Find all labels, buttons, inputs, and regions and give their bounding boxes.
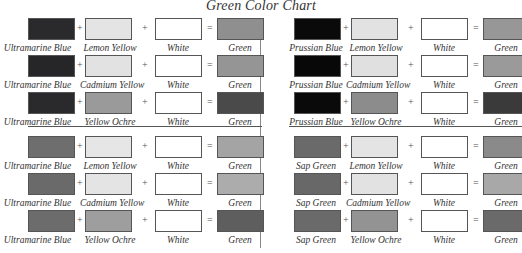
mix-row: Ultramarine BlueLemon YellowWhiteGreen++… <box>0 18 255 55</box>
swatch-label: White <box>150 198 206 208</box>
swatch-label: Ultramarine Blue <box>0 43 75 53</box>
swatch-label: Green <box>478 43 522 53</box>
plus-sign: + <box>142 22 148 33</box>
result-swatch <box>483 18 522 40</box>
swatch-label: White <box>416 117 472 127</box>
result-swatch <box>483 210 522 232</box>
ingredient-swatch <box>421 173 468 195</box>
ingredient-swatch <box>421 210 468 232</box>
ingredient-swatch <box>28 18 75 40</box>
ingredient-swatch <box>155 173 202 195</box>
plus-sign: + <box>77 59 83 70</box>
result-swatch <box>217 55 264 77</box>
swatch-label: Sap Green <box>288 198 344 208</box>
swatch-label: Cadmium Yellow <box>80 80 140 90</box>
plus-sign: + <box>77 140 83 151</box>
ingredient-swatch <box>351 92 398 114</box>
result-swatch <box>483 136 522 158</box>
swatch-label: Green <box>212 198 268 208</box>
ingredient-swatch <box>155 55 202 77</box>
swatch-label: Yellow Ochre <box>80 235 140 245</box>
swatch-label: Green <box>478 161 522 171</box>
plus-sign: + <box>408 22 414 33</box>
ingredient-swatch <box>85 92 132 114</box>
swatch-label: Yellow Ochre <box>80 117 140 127</box>
swatch-label: Lemon Yellow <box>80 161 140 171</box>
swatch-label: Cadmium Yellow <box>346 198 406 208</box>
swatch-label: Yellow Ochre <box>346 235 406 245</box>
plus-sign: + <box>343 177 349 188</box>
swatch-label: White <box>416 161 472 171</box>
ingredient-swatch <box>85 18 132 40</box>
plus-sign: + <box>77 177 83 188</box>
plus-sign: + <box>142 96 148 107</box>
mix-row: Ultramarine BlueCadmium YellowWhiteGreen… <box>0 55 255 92</box>
ingredient-swatch <box>294 173 341 195</box>
mix-row: Prussian BlueLemon YellowWhiteGreen++= <box>266 18 521 55</box>
ingredient-swatch <box>421 92 468 114</box>
swatch-label: Green <box>478 117 522 127</box>
plus-sign: + <box>408 59 414 70</box>
swatch-label: White <box>150 80 206 90</box>
swatch-label: Prussian Blue <box>288 117 344 127</box>
swatch-label: White <box>416 80 472 90</box>
swatch-label: Ultramarine Blue <box>0 117 75 127</box>
ingredient-swatch <box>294 210 341 232</box>
ingredient-swatch <box>28 210 75 232</box>
equals-sign: = <box>473 96 479 107</box>
mix-row: Prussian BlueCadmium YellowWhiteGreen++= <box>266 55 521 92</box>
ingredient-swatch <box>85 136 132 158</box>
swatch-label: Sap Green <box>288 235 344 245</box>
equals-sign: = <box>207 140 213 151</box>
plus-sign: + <box>343 59 349 70</box>
plus-sign: + <box>77 214 83 225</box>
swatch-label: Ultramarine Blue <box>0 235 75 245</box>
equals-sign: = <box>207 96 213 107</box>
mix-row: Sap GreenCadmium YellowWhiteGreen++= <box>266 173 521 210</box>
ingredient-swatch <box>155 210 202 232</box>
swatch-label: Lemon Yellow <box>346 161 406 171</box>
ingredient-swatch <box>28 92 75 114</box>
swatch-label: Green <box>212 43 268 53</box>
ingredient-swatch <box>421 136 468 158</box>
equals-sign: = <box>473 177 479 188</box>
plus-sign: + <box>343 140 349 151</box>
equals-sign: = <box>207 22 213 33</box>
mix-row: Sap GreenYellow OchreWhiteGreen++= <box>266 210 521 247</box>
swatch-label: Sap Green <box>288 161 344 171</box>
result-swatch <box>217 136 264 158</box>
swatch-label: Green <box>478 198 522 208</box>
ingredient-swatch <box>351 136 398 158</box>
ingredient-swatch <box>351 18 398 40</box>
plus-sign: + <box>77 96 83 107</box>
ingredient-swatch <box>351 55 398 77</box>
chart-title: Green Color Chart <box>0 0 522 14</box>
plus-sign: + <box>343 96 349 107</box>
swatch-label: White <box>416 43 472 53</box>
ingredient-swatch <box>155 18 202 40</box>
result-swatch <box>483 55 522 77</box>
swatch-label: Ultramarine Blue <box>0 198 75 208</box>
equals-sign: = <box>207 214 213 225</box>
result-swatch <box>217 92 264 114</box>
ingredient-swatch <box>155 136 202 158</box>
swatch-label: Green <box>212 117 268 127</box>
equals-sign: = <box>207 59 213 70</box>
result-swatch <box>217 210 264 232</box>
ingredient-swatch <box>28 55 75 77</box>
ingredient-swatch <box>155 92 202 114</box>
plus-sign: + <box>77 22 83 33</box>
equals-sign: = <box>473 140 479 151</box>
ingredient-swatch <box>351 210 398 232</box>
ingredient-swatch <box>294 136 341 158</box>
equals-sign: = <box>207 177 213 188</box>
swatch-label: Prussian Blue <box>288 80 344 90</box>
swatch-label: Yellow Ochre <box>346 117 406 127</box>
mix-row: Ultramarine BlueYellow OchreWhiteGreen++… <box>0 210 255 247</box>
swatch-label: White <box>150 235 206 245</box>
swatch-label: White <box>150 161 206 171</box>
plus-sign: + <box>142 214 148 225</box>
equals-sign: = <box>473 59 479 70</box>
plus-sign: + <box>142 177 148 188</box>
result-swatch <box>483 173 522 195</box>
